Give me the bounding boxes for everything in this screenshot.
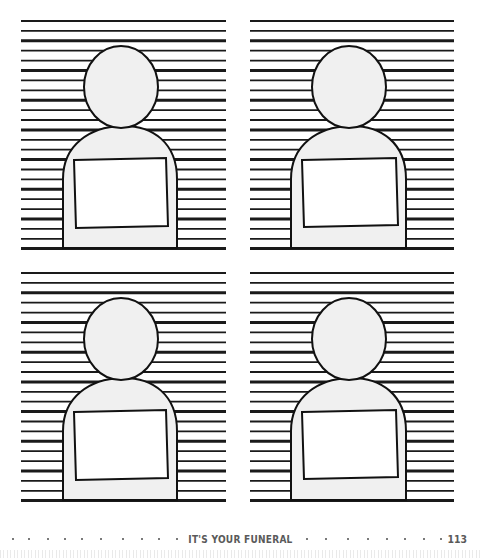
mugshot-silhouette-icon xyxy=(21,19,227,251)
mugshot-panel-bottom-left xyxy=(21,271,227,503)
page-number: 113 xyxy=(447,533,467,546)
page-edge-texture xyxy=(0,550,481,558)
head-shape xyxy=(84,46,158,128)
page-footer: IT'S YOUR FUNERAL 113 xyxy=(0,533,481,549)
head-shape xyxy=(312,298,386,380)
mugshot-silhouette-icon xyxy=(250,19,456,251)
placard xyxy=(74,158,168,228)
placard xyxy=(74,410,168,480)
mugshot-silhouette-icon xyxy=(21,271,227,503)
mugshot-panel-top-right xyxy=(250,19,456,251)
head-shape xyxy=(84,298,158,380)
head-shape xyxy=(312,46,386,128)
mugshot-silhouette-icon xyxy=(250,271,456,503)
mugshot-panel-bottom-right xyxy=(250,271,456,503)
placard xyxy=(302,410,398,479)
footer-dots-right-icon xyxy=(285,538,455,542)
mugshot-panel-top-left xyxy=(21,19,227,251)
placard xyxy=(302,158,398,227)
